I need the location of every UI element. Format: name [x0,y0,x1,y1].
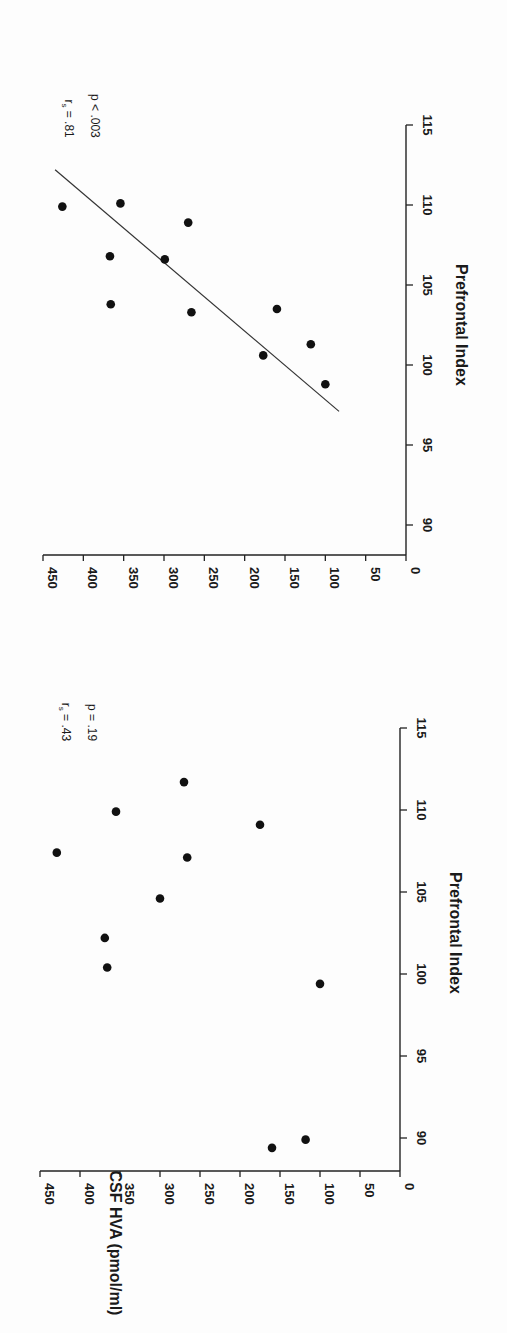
data-point [161,255,170,264]
y-tick-label: 250 [206,567,221,589]
x-tick-label: 110 [414,800,429,821]
data-point [106,252,115,261]
y-tick-label: 200 [247,567,262,589]
data-point [268,1144,277,1153]
p-value-label: p < .003 [88,94,102,138]
x-tick-label: 90 [420,518,435,532]
x-tick-label: 95 [420,438,435,452]
data-point [316,980,325,989]
data-point [187,308,196,317]
y-tick-label: 350 [126,567,141,589]
y-tick-label: 450 [45,567,60,589]
data-point [58,202,67,211]
x-tick-label: 105 [414,881,429,903]
y-tick-label: 50 [362,1183,377,1197]
y-tick-label: 450 [42,1183,57,1205]
y-tick-label: 300 [166,567,181,589]
data-point [112,807,121,816]
data-point [116,199,125,208]
data-point [180,778,189,787]
scatter-panel-bottom: 0501001502002503003504004509095100105110… [40,703,464,1316]
y-tick-label: 0 [402,1183,417,1190]
x-tick-label: 95 [414,1049,429,1063]
x-axis-title: Prefrontal Index [447,872,464,994]
y-tick-label: 100 [327,567,342,589]
y-tick-label: 50 [368,567,383,581]
y-tick-label: 0 [408,567,423,574]
y-tick-label: 150 [282,1183,297,1205]
data-point [106,300,115,309]
data-point [101,934,110,943]
figure-canvas: 0501001502002503003504004509095100105110… [0,0,507,1333]
x-axis-title: Prefrontal Index [453,264,470,386]
y-tick-label: 250 [202,1183,217,1205]
y-tick-label: 300 [162,1183,177,1205]
data-point [321,380,330,389]
p-value-label: p = .19 [85,704,99,741]
data-point [273,305,282,314]
x-tick-label: 110 [420,195,435,216]
y-tick-label: 400 [85,567,100,589]
x-tick-label: 90 [414,1131,429,1145]
x-tick-label: 100 [420,354,435,376]
y-tick-label: 200 [242,1183,257,1205]
data-point [259,351,268,360]
regression-line [55,170,339,412]
scatter-panel-top: 0501001502002503003504004509095100105110… [43,94,470,589]
correlation-label: rs = .43 [57,703,73,742]
data-point [307,340,316,349]
data-point [53,848,62,857]
data-point [256,820,265,829]
x-tick-label: 115 [420,115,435,136]
data-point [184,218,193,227]
x-tick-label: 105 [420,274,435,296]
y-tick-label: 100 [322,1183,337,1205]
data-point [103,963,112,972]
x-tick-label: 115 [414,718,429,739]
y-tick-label: 400 [82,1183,97,1205]
y-axis-title: CSF HVA (pmol/ml) [107,1171,124,1316]
data-point [156,894,165,903]
data-point [301,1135,310,1144]
x-tick-label: 100 [414,963,429,985]
y-tick-label: 150 [287,567,302,589]
data-point [183,853,192,862]
correlation-label: rs = .81 [60,99,76,138]
